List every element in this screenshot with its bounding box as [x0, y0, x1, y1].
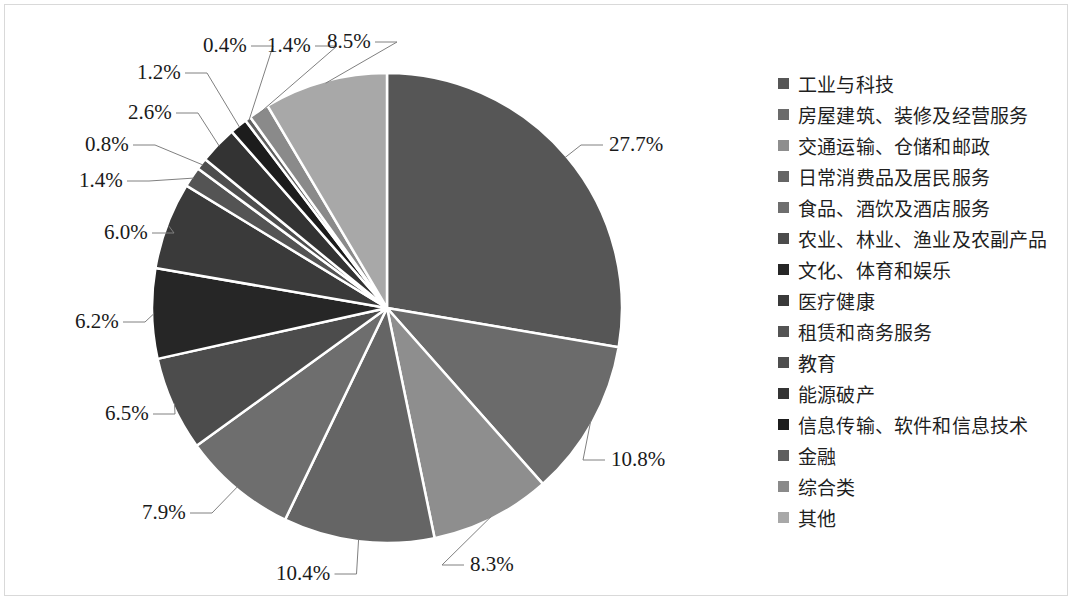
leader-line — [133, 145, 203, 165]
legend-color-swatch — [778, 295, 789, 306]
legend-color-swatch — [778, 481, 789, 492]
legend-color-swatch — [778, 78, 789, 89]
pie-slice-value-label: 27.7% — [609, 134, 663, 155]
legend-item-label: 交通运输、仓储和邮政 — [798, 132, 990, 159]
leader-line — [176, 113, 219, 146]
legend-color-swatch — [778, 233, 789, 244]
legend-item[interactable]: 租赁和商务服务 — [778, 316, 1064, 347]
pie-slice-value-label: 0.8% — [85, 134, 129, 155]
legend-item-label: 工业与科技 — [798, 70, 894, 97]
leader-line — [185, 73, 240, 127]
pie-slice-value-label: 6.2% — [75, 311, 119, 332]
legend-item-label: 金融 — [798, 442, 836, 469]
pie-slice-value-label: 8.3% — [470, 554, 514, 575]
legend-item[interactable]: 金融 — [778, 440, 1064, 471]
pie-slice[interactable] — [387, 73, 622, 347]
legend-color-swatch — [778, 171, 789, 182]
pie-slice-value-label: 8.5% — [327, 31, 371, 52]
legend-color-swatch — [778, 419, 789, 430]
legend-item-label: 医疗健康 — [798, 287, 875, 314]
legend-color-swatch — [778, 264, 789, 275]
leader-line — [335, 539, 359, 574]
legend-color-swatch — [778, 512, 789, 523]
pie-chart-area: 27.7%10.8%8.3%10.4%7.9%6.5%6.2%6.0%1.4%0… — [0, 0, 740, 602]
legend-item-label: 农业、林业、渔业及农副产品 — [798, 225, 1048, 252]
legend-item[interactable]: 房屋建筑、装修及经营服务 — [778, 99, 1064, 130]
legend-item[interactable]: 其他 — [778, 502, 1064, 533]
leader-line — [565, 145, 603, 158]
leader-line — [127, 178, 194, 181]
legend-color-swatch — [778, 202, 789, 213]
pie-slice-value-label: 0.4% — [203, 35, 247, 56]
legend-color-swatch — [778, 109, 789, 120]
legend-item-label: 信息传输、软件和信息技术 — [798, 411, 1028, 438]
legend-item[interactable]: 教育 — [778, 347, 1064, 378]
legend-item[interactable]: 信息传输、软件和信息技术 — [778, 409, 1064, 440]
legend-item[interactable]: 食品、酒饮及酒店服务 — [778, 192, 1064, 223]
legend-item-label: 食品、酒饮及酒店服务 — [798, 194, 990, 221]
pie-slice-value-label: 1.2% — [137, 62, 181, 83]
legend-item[interactable]: 日常消费品及居民服务 — [778, 161, 1064, 192]
legend-item-label: 房屋建筑、装修及经营服务 — [798, 101, 1028, 128]
pie-slices-group — [152, 73, 622, 543]
legend-item[interactable]: 能源破产 — [778, 378, 1064, 409]
leader-line — [123, 314, 154, 323]
chart-page: 27.7%10.8%8.3%10.4%7.9%6.5%6.2%6.0%1.4%0… — [0, 0, 1074, 602]
pie-chart-svg — [0, 0, 740, 602]
pie-slice-value-label: 7.9% — [142, 502, 186, 523]
pie-slice-value-label: 10.8% — [611, 449, 665, 470]
legend-item-label: 其他 — [798, 504, 836, 531]
legend-item[interactable]: 医疗健康 — [778, 285, 1064, 316]
legend-item-label: 租赁和商务服务 — [798, 318, 932, 345]
chart-legend: 工业与科技房屋建筑、装修及经营服务交通运输、仓储和邮政日常消费品及居民服务食品、… — [778, 68, 1064, 533]
legend-item-label: 教育 — [798, 349, 836, 376]
legend-color-swatch — [778, 450, 789, 461]
legend-color-swatch — [778, 388, 789, 399]
legend-item-label: 综合类 — [798, 473, 856, 500]
pie-slice-value-label: 6.0% — [104, 222, 148, 243]
legend-color-swatch — [778, 140, 789, 151]
pie-slice-value-label: 1.4% — [79, 170, 123, 191]
legend-color-swatch — [778, 326, 789, 337]
legend-item-label: 日常消费品及居民服务 — [798, 163, 990, 190]
legend-color-swatch — [778, 357, 789, 368]
legend-item[interactable]: 交通运输、仓储和邮政 — [778, 130, 1064, 161]
legend-item[interactable]: 综合类 — [778, 471, 1064, 502]
legend-item-label: 文化、体育和娱乐 — [798, 256, 952, 283]
pie-slice-value-label: 10.4% — [276, 563, 330, 584]
pie-slice-value-label: 6.5% — [105, 403, 149, 424]
leader-line — [190, 487, 238, 513]
pie-slice-value-label: 2.6% — [128, 102, 172, 123]
legend-item[interactable]: 工业与科技 — [778, 68, 1064, 99]
legend-item[interactable]: 文化、体育和娱乐 — [778, 254, 1064, 285]
pie-slice-value-label: 1.4% — [267, 35, 311, 56]
legend-item-label: 能源破产 — [798, 380, 875, 407]
legend-item[interactable]: 农业、林业、渔业及农副产品 — [778, 223, 1064, 254]
